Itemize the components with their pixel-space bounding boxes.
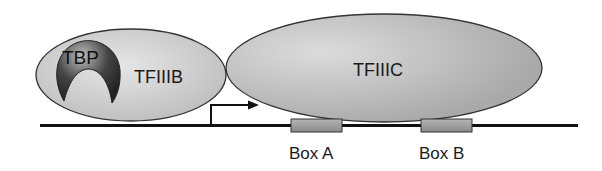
box-b-element <box>421 119 472 132</box>
tbp-label: TBP <box>62 47 99 68</box>
tfiiib-label: TFIIIB <box>134 67 183 87</box>
tfiiic-label: TFIIIC <box>353 60 403 80</box>
diagram-canvas: TBP TFIIIB TFIIIC Box A Box B <box>0 0 602 171</box>
transcription-start-arrow-icon <box>211 101 259 126</box>
box-b-label: Box B <box>419 144 464 163</box>
box-a-element <box>291 119 342 132</box>
box-a-label: Box A <box>289 144 334 163</box>
